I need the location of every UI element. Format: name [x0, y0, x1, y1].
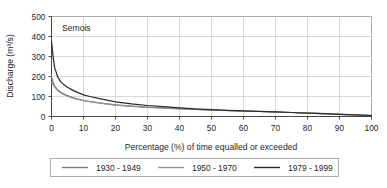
x-tick-label: 10	[79, 123, 89, 133]
legend-label-0: 1930 - 1949	[96, 163, 141, 173]
y-tick-label: 400	[32, 32, 46, 42]
x-tick-label: 100	[365, 123, 379, 133]
y-tick-label: 100	[32, 92, 46, 102]
x-axis-title: Percentage (%) of time equalled or excee…	[125, 142, 298, 152]
x-tick-label: 0	[49, 123, 54, 133]
y-tick-label: 200	[32, 72, 46, 82]
x-tick-labels: 0102030405060708090100	[49, 123, 379, 133]
x-tick-label: 80	[303, 123, 313, 133]
y-tick-label: 300	[32, 52, 46, 62]
x-tick-label: 90	[335, 123, 345, 133]
x-tick-label: 30	[143, 123, 153, 133]
y-axis-title: Discharge (m³/s)	[5, 34, 15, 98]
flow-duration-curve-figure: 0102030405060708090100 0100200300400500 …	[0, 0, 387, 188]
plot-annotation-label: Semois	[62, 23, 91, 33]
y-tick-label: 0	[41, 112, 46, 122]
x-tick-label: 20	[111, 123, 121, 133]
y-tick-label: 500	[32, 12, 46, 22]
chart-canvas: 0102030405060708090100 0100200300400500 …	[0, 0, 387, 188]
y-tick-labels: 0100200300400500	[32, 12, 46, 122]
x-tick-label: 70	[271, 123, 281, 133]
gridlines	[52, 17, 372, 117]
x-tick-label: 60	[239, 123, 249, 133]
x-tick-label: 40	[175, 123, 185, 133]
legend-label-1: 1950 - 1970	[192, 163, 237, 173]
legend-entries: 1930 - 19491950 - 19701979 - 1999	[62, 163, 333, 173]
tick-marks	[49, 17, 372, 120]
legend-label-2: 1979 - 1999	[288, 163, 333, 173]
x-tick-label: 50	[207, 123, 217, 133]
